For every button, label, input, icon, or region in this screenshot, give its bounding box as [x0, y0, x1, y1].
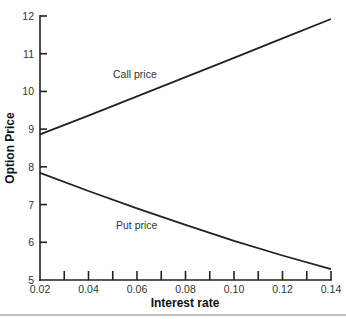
x-tick-label: 0.08 [175, 283, 196, 295]
y-tick-label: 9 [28, 123, 34, 135]
x-tick-label: 0.06 [127, 283, 148, 295]
y-tick-label: 12 [22, 10, 34, 22]
x-tick-label: 0.14 [321, 283, 342, 295]
x-axis-ticks: 0.020.040.060.080.100.120.14 [30, 271, 342, 295]
x-tick-label: 0.02 [30, 283, 51, 295]
y-tick-label: 6 [28, 236, 34, 248]
option-price-chart: 56789101112 0.020.040.060.080.100.120.14… [0, 0, 346, 319]
x-tick-label: 0.10 [224, 283, 245, 295]
x-tick-label: 0.12 [272, 283, 293, 295]
y-tick-label: 7 [28, 199, 34, 211]
put-price-line [40, 173, 331, 269]
call-price-label: Call price [113, 68, 157, 80]
y-tick-label: 10 [22, 85, 34, 97]
y-axis-title: Option Price [3, 112, 17, 184]
y-tick-label: 11 [23, 48, 34, 60]
bottom-divider [0, 314, 346, 316]
put-price-label: Put price [116, 219, 158, 231]
x-tick-label: 0.04 [78, 283, 99, 295]
y-axis-ticks: 56789101112 [22, 10, 47, 286]
x-axis-title: Interest rate [151, 296, 220, 310]
call-price-line [40, 19, 331, 134]
y-tick-label: 8 [28, 161, 34, 173]
